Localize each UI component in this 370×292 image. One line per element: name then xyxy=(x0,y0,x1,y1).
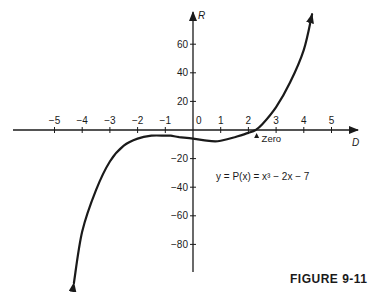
y-axis-label: R xyxy=(198,10,205,21)
figure-caption: FIGURE 9-11 xyxy=(290,272,368,286)
y-tick-label: 20 xyxy=(177,96,189,107)
zero-annotation: Zero xyxy=(254,133,281,144)
x-tick-label: 5 xyxy=(329,115,335,126)
y-tick-label: −20 xyxy=(171,153,188,164)
zero-pointer-icon xyxy=(254,133,259,138)
x-tick-label: −5 xyxy=(49,115,61,126)
axis-ticks: −5−4−3−2−1012345604020−20−40−60−80 xyxy=(49,39,335,250)
equation-label: y = P(x) = x³ − 2x − 7 xyxy=(216,171,310,182)
x-tick-label: 1 xyxy=(218,115,224,126)
x-tick-label: 3 xyxy=(273,115,279,126)
y-tick-label: −60 xyxy=(171,210,188,221)
zero-label: Zero xyxy=(262,133,282,144)
y-tick-label: −80 xyxy=(171,239,188,250)
y-tick-label: −40 xyxy=(171,182,188,193)
x-tick-label: 4 xyxy=(301,115,307,126)
x-tick-label: 2 xyxy=(246,115,252,126)
y-tick-label: 40 xyxy=(177,67,189,78)
x-axis-label: D xyxy=(352,137,359,148)
x-tick-label: −2 xyxy=(132,115,144,126)
cubic-function-chart: −5−4−3−2−1012345604020−20−40−60−80 Zero … xyxy=(0,0,370,292)
y-tick-label: 60 xyxy=(177,39,189,50)
axes xyxy=(13,12,358,272)
x-tick-label: −1 xyxy=(160,115,172,126)
x-tick-label: 0 xyxy=(196,115,202,126)
x-tick-label: −3 xyxy=(104,115,116,126)
x-tick-label: −4 xyxy=(76,115,88,126)
